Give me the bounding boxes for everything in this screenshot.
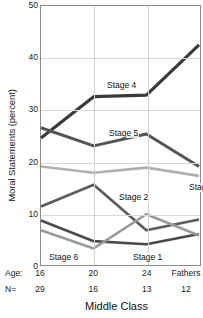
chart-title: Middle Class <box>30 300 203 312</box>
y-tick-label: 50 <box>16 1 38 10</box>
series-label-stage-6: Stage 6 <box>48 253 79 262</box>
series-label-stage-2: Stage 2 <box>118 193 149 202</box>
axis-cell: 16 <box>89 284 98 294</box>
axis-cell: 24 <box>142 268 151 278</box>
gridline-horizontal <box>41 215 200 216</box>
gridline-vertical <box>148 6 149 265</box>
chart-container: Moral Statements (percent) 01020304050 S… <box>0 0 203 318</box>
axis-cell: 29 <box>35 284 44 294</box>
axis-cell: 16 <box>35 268 44 278</box>
y-tick-label: 20 <box>16 158 38 167</box>
axis-row-n: N=29161312 <box>0 284 203 298</box>
series-label-stage-4: Stage 4 <box>106 81 137 90</box>
y-tick-label: 10 <box>16 210 38 219</box>
gridline-vertical <box>94 6 95 265</box>
gridline-horizontal <box>41 58 200 59</box>
axis-row-key: N= <box>5 284 16 294</box>
y-tick-label: 30 <box>16 105 38 114</box>
gridline-horizontal <box>41 163 200 164</box>
y-tick-label: 40 <box>16 53 38 62</box>
axis-row-age: Age:162024Fathers <box>0 268 203 282</box>
axis-cell: 12 <box>181 284 190 294</box>
series-label-stage-3: Stage 3 <box>188 183 203 192</box>
series-label-stage-5: Stage 5 <box>108 129 139 138</box>
axis-row-key: Age: <box>5 268 23 278</box>
series-line-stage-3 <box>41 167 199 176</box>
gridline-horizontal <box>41 110 200 111</box>
series-label-stage-1: Stage 1 <box>132 253 163 262</box>
axis-cell: 13 <box>142 284 151 294</box>
axis-cell: 20 <box>89 268 98 278</box>
axis-cell: Fathers <box>172 268 201 278</box>
